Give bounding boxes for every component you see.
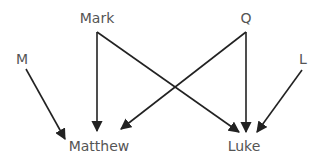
node-m: M (16, 51, 28, 67)
node-q: Q (240, 10, 251, 26)
node-mark: Mark (80, 10, 115, 26)
node-luke: Luke (228, 138, 261, 154)
node-matthew: Matthew (69, 138, 130, 154)
edge-q-to-matthew (121, 32, 246, 129)
source-diagram: Mark Q M L Matthew Luke (0, 0, 320, 157)
edge-mark-to-luke (97, 32, 239, 132)
node-l: L (299, 51, 307, 67)
edge-l-to-luke (257, 70, 302, 132)
edge-m-to-matthew (26, 69, 65, 139)
